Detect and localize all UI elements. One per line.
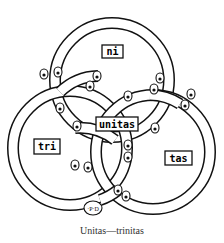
svg-text:unitas: unitas (99, 119, 135, 130)
svg-text:tas: tas (169, 153, 187, 164)
figure-caption: Unitas—trinitas (0, 225, 224, 236)
label-unitas: unitas (96, 117, 138, 131)
diagram-canvas: .band-out { fill:none; stroke:#111; stro… (0, 0, 224, 243)
svg-text:·P·D: ·P·D (87, 206, 99, 212)
svg-text:tri: tri (38, 141, 56, 152)
label-ni: ni (102, 45, 123, 58)
label-tas: tas (165, 151, 192, 165)
monogram-pd: ·P·D (87, 206, 99, 212)
rings-figure: .band-out { fill:none; stroke:#111; stro… (0, 0, 224, 243)
label-tri: tri (34, 139, 60, 154)
svg-text:ni: ni (106, 46, 118, 57)
